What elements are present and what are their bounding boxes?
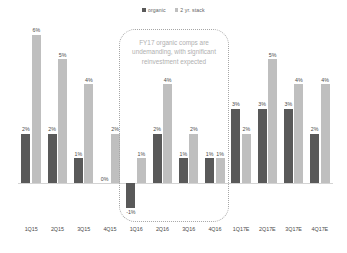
bar-group: 1%4% [71, 26, 97, 222]
bar-value-label: 5% [59, 52, 67, 58]
bar-value-label: 1% [75, 151, 83, 157]
bar-slot: 1% [74, 26, 83, 222]
x-tick-label: 2Q17E [254, 226, 280, 232]
bar-organic [284, 109, 293, 183]
bar-slot: 4% [84, 26, 93, 222]
bar-value-label: 2% [190, 126, 198, 132]
bar-organic [179, 158, 188, 183]
bar-organic [153, 134, 162, 183]
bar-slot: 3% [231, 26, 240, 222]
bar-2-yr-stack [321, 84, 330, 183]
bar-organic [21, 134, 30, 183]
bar-2-yr-stack [84, 84, 93, 183]
bar-2-yr-stack [32, 35, 41, 183]
x-tick-label: 3Q17E [281, 226, 307, 232]
bar-organic [310, 134, 319, 183]
bar-group-bars: 2%5% [44, 26, 70, 222]
bar-group-bars: 1%4% [71, 26, 97, 222]
bar-slot: 2% [21, 26, 30, 222]
bar-2-yr-stack [163, 84, 172, 183]
bar-organic [126, 183, 135, 208]
bar-value-label: -1% [126, 209, 135, 215]
bar-slot: 4% [321, 26, 330, 222]
x-tick-label: 2Q15 [44, 226, 70, 232]
bar-organic [74, 158, 83, 183]
bar-slot: 4% [294, 26, 303, 222]
bar-value-label: 0% [101, 176, 109, 182]
bar-slot: 2% [48, 26, 57, 222]
bar-2-yr-stack [137, 158, 146, 183]
bar-organic [205, 158, 214, 183]
bar-value-label: 2% [22, 126, 30, 132]
bar-2-yr-stack [111, 134, 120, 183]
bar-organic [231, 109, 240, 183]
bar-value-label: 2% [311, 126, 319, 132]
chart-legend: organic 2 yr. stack [0, 7, 347, 13]
bar-2-yr-stack [216, 158, 225, 183]
bar-value-label: 3% [232, 101, 240, 107]
bar-organic [48, 134, 57, 183]
bar-slot: 2% [111, 26, 120, 222]
bar-slot: 3% [284, 26, 293, 222]
bar-group: 3%4% [281, 26, 307, 222]
x-tick-label: 1Q16 [123, 226, 149, 232]
bar-value-label: 3% [258, 101, 266, 107]
bar-group-bars: 3%4% [281, 26, 307, 222]
bar-group-bars: 3%2% [228, 26, 254, 222]
x-tick-label: 4Q16 [202, 226, 228, 232]
bar-value-label: 4% [85, 77, 93, 83]
legend-item-organic: organic [142, 7, 165, 13]
bar-group-bars: 3%5% [254, 26, 280, 222]
bar-value-label: 4% [164, 77, 172, 83]
bar-value-label: 4% [295, 77, 303, 83]
bar-2-yr-stack [189, 134, 198, 183]
x-axis-tick-labels: 1Q152Q153Q154Q151Q162Q163Q164Q161Q17E2Q1… [18, 226, 333, 232]
x-tick-label: 1Q17E [228, 226, 254, 232]
bar-value-label: 1% [180, 151, 188, 157]
bar-group: 3%2% [228, 26, 254, 222]
bar-group: 2%5% [44, 26, 70, 222]
bar-slot: 2% [242, 26, 251, 222]
legend-swatch-organic-icon [142, 8, 145, 11]
bar-value-label: 2% [111, 126, 119, 132]
legend-swatch-two-yr-stack-icon [175, 8, 178, 11]
bar-2-yr-stack [242, 134, 251, 183]
x-tick-label: 3Q16 [176, 226, 202, 232]
x-tick-label: 2Q16 [149, 226, 175, 232]
bar-value-label: 1% [138, 151, 146, 157]
annotation-callout-text: FY17 organic comps are undemanding, with… [120, 38, 228, 66]
bar-slot: 5% [58, 26, 67, 222]
bar-value-label: 3% [285, 101, 293, 107]
bar-2-yr-stack [268, 59, 277, 183]
bar-value-label: 6% [33, 27, 41, 33]
legend-label-organic: organic [148, 7, 166, 13]
comps-bar-chart: organic 2 yr. stack 2%6%2%5%1%4%0%2%-1%1… [0, 0, 347, 253]
x-tick-label: 3Q15 [71, 226, 97, 232]
bar-value-label: 4% [321, 77, 329, 83]
bar-value-label: 5% [269, 52, 277, 58]
bar-slot: 0% [100, 26, 109, 222]
legend-item-two-yr-stack: 2 yr. stack [175, 7, 205, 13]
x-tick-label: 1Q15 [18, 226, 44, 232]
bar-2-yr-stack [58, 59, 67, 183]
bar-slot: 6% [32, 26, 41, 222]
legend-label-two-yr-stack: 2 yr. stack [180, 7, 204, 13]
x-tick-label: 4Q15 [97, 226, 123, 232]
bar-value-label: 1% [206, 151, 214, 157]
bar-2-yr-stack [294, 84, 303, 183]
bar-slot: 5% [268, 26, 277, 222]
bar-slot: 3% [258, 26, 267, 222]
bar-value-label: 2% [153, 126, 161, 132]
bar-group: 3%5% [254, 26, 280, 222]
bar-group-bars: 2%6% [18, 26, 44, 222]
bar-group-bars: 2%4% [307, 26, 333, 222]
bar-value-label: 1% [216, 151, 224, 157]
bar-group: 2%4% [307, 26, 333, 222]
bar-slot: 2% [310, 26, 319, 222]
bar-group: 2%6% [18, 26, 44, 222]
bar-value-label: 2% [243, 126, 251, 132]
bar-organic [258, 109, 267, 183]
bar-value-label: 2% [48, 126, 56, 132]
x-tick-label: 4Q17E [307, 226, 333, 232]
